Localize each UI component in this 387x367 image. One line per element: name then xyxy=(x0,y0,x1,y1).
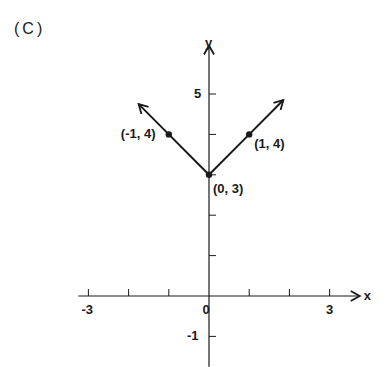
data-point-dot xyxy=(246,131,252,137)
y-tick-label: 5 xyxy=(194,87,201,100)
y-tick-label: -1 xyxy=(187,329,199,342)
point-label: (-1, 4) xyxy=(121,127,156,140)
point-label: (0, 3) xyxy=(213,182,243,195)
x-tick-label: 0 xyxy=(203,303,210,316)
y-axis-label: y xyxy=(205,36,212,49)
data-point-dot xyxy=(166,131,172,137)
x-axis-label: x xyxy=(364,289,371,302)
axes xyxy=(78,46,359,367)
x-tick-label: -3 xyxy=(81,303,93,316)
x-tick-label: 3 xyxy=(326,303,333,316)
data-point-dot xyxy=(206,172,212,178)
point-label: (1, 4) xyxy=(254,137,284,150)
